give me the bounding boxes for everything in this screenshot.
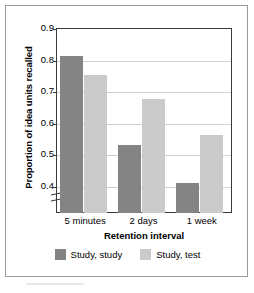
bar (176, 183, 199, 213)
legend-swatch-icon (55, 249, 66, 260)
y-tick-label: 0.8 (32, 55, 54, 65)
x-tick-label: 5 minutes (56, 215, 114, 226)
bar (84, 75, 107, 213)
y-tick-label: 0.5 (32, 149, 54, 159)
bar-series-layer (57, 28, 232, 213)
x-tick-label: 1 week (173, 215, 231, 226)
bar (118, 145, 141, 213)
y-tick-label: 0.4 (32, 181, 54, 191)
figure-frame: Proportion of idea units recalled 0.90.8… (5, 5, 248, 277)
x-tick-label: 2 days (114, 215, 172, 226)
bar (200, 135, 223, 213)
x-axis-title: Retention interval (56, 230, 232, 241)
y-tick-label: 0.7 (32, 86, 54, 96)
y-axis-tick-labels: 0.90.80.70.60.50.4 (26, 6, 54, 278)
legend-label: Study, test (156, 249, 200, 260)
scan-artifact (26, 283, 84, 285)
bar (60, 56, 83, 213)
y-tick-label: 0.9 (32, 23, 54, 33)
legend-item[interactable]: Study, study (55, 249, 123, 260)
legend-swatch-icon (140, 249, 151, 260)
x-axis-tick-labels: 5 minutes2 days1 week (56, 215, 232, 229)
chart-legend: Study, studyStudy, test (6, 249, 249, 260)
legend-label: Study, study (71, 249, 123, 260)
bar (142, 99, 165, 213)
legend-item[interactable]: Study, test (140, 249, 200, 260)
y-tick-label: 0.6 (32, 118, 54, 128)
